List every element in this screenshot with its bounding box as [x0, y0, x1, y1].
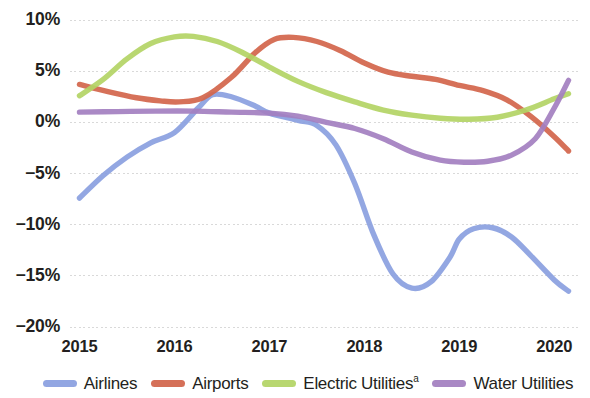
legend-swatch-icon — [151, 380, 185, 387]
plot-svg — [0, 0, 590, 360]
x-tick-label: 2019 — [423, 338, 495, 355]
legend-swatch-icon — [43, 380, 77, 387]
legend-label: Airlines — [84, 375, 137, 392]
x-tick-label: 2018 — [328, 338, 400, 355]
legend-label: Electric Utilitiesa — [303, 374, 418, 392]
x-tick-label: 2020 — [518, 338, 590, 355]
legend-label: Airports — [192, 375, 248, 392]
series-line-electric-utilities — [80, 36, 569, 119]
y-tick-label: −10% — [0, 216, 60, 234]
legend-swatch-icon — [262, 380, 296, 387]
x-tick-label: 2017 — [233, 338, 305, 355]
line-chart: 10%5%0%−5%−10%−15%−20% 20152016201720182… — [0, 0, 590, 398]
y-tick-label: 5% — [0, 62, 60, 80]
chart-legend: AirlinesAirportsElectric UtilitiesaWater… — [0, 368, 590, 398]
legend-footnote-marker: a — [413, 373, 418, 384]
x-tick-label: 2015 — [43, 338, 115, 355]
gridlines — [70, 20, 578, 327]
x-tick-label: 2016 — [138, 338, 210, 355]
legend-label: Water Utilities — [473, 375, 573, 392]
y-tick-label: −15% — [0, 267, 60, 285]
legend-item-airlines[interactable]: Airlines — [43, 375, 137, 392]
y-tick-label: 0% — [0, 113, 60, 131]
legend-swatch-icon — [432, 380, 466, 387]
y-tick-label: 10% — [0, 11, 60, 29]
y-tick-label: −20% — [0, 318, 60, 336]
y-tick-label: −5% — [0, 165, 60, 183]
series-lines — [80, 36, 569, 291]
legend-item-water-utilities[interactable]: Water Utilities — [432, 375, 573, 392]
legend-item-electric-utilities[interactable]: Electric Utilitiesa — [262, 374, 418, 392]
plot-area — [0, 0, 590, 360]
legend-item-airports[interactable]: Airports — [151, 375, 248, 392]
